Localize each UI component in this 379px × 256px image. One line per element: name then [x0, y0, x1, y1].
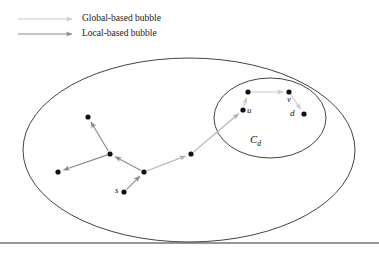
graph-edge-e-hubleft-upperleft — [91, 122, 108, 151]
graph-edge-e-hubleft-farleft — [63, 155, 106, 170]
graph-edge-e-s-hub — [126, 176, 139, 189]
local-bubble-ellipse — [214, 78, 326, 158]
graph-edge-e-hub-hubleft — [115, 157, 141, 171]
graph-node-n-hub — [141, 169, 146, 174]
graph-node-n-top-inner — [245, 89, 250, 94]
cluster-label-cd: Cd — [250, 134, 261, 148]
node-label-u: u — [247, 106, 252, 115]
node-label-v: v — [287, 95, 291, 104]
legend-label-global-based-bubble: Global-based bubble — [82, 14, 161, 24]
graph-node-n-hub-left — [107, 151, 112, 156]
graph-edge-e-hub-midright — [147, 156, 185, 171]
node-label-d: d — [290, 109, 295, 118]
node-label-s: s — [115, 186, 119, 195]
graph-node-n-mid-right — [188, 151, 193, 156]
graph-node-n-d — [301, 111, 306, 116]
graph-node-n-s — [121, 189, 126, 194]
graph-edge-e-midright-u — [194, 114, 239, 152]
bubble-diagram-figure: Global-based bubble Local-based bubble C… — [0, 0, 379, 256]
cluster-label-subscript: d — [257, 139, 261, 148]
diagram-canvas — [0, 0, 379, 256]
graph-node-n-u — [240, 107, 245, 112]
legend-label-local-based-bubble: Local-based bubble — [82, 29, 157, 39]
graph-node-n-far-left — [55, 169, 60, 174]
global-bubble-ellipse — [23, 58, 355, 242]
graph-node-n-upper-left — [85, 114, 90, 119]
